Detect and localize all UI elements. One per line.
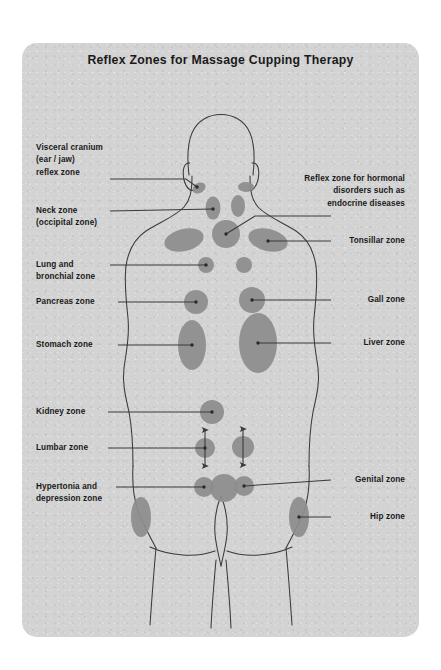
label-lumbar-zone[interactable]: Lumbar zone bbox=[36, 442, 88, 454]
label-hormonal-zone[interactable]: Reflex zone for hormonal disorders such … bbox=[304, 173, 405, 210]
zone-hip-left bbox=[131, 497, 151, 537]
label-lung-bronchial-zone[interactable]: Lung and bronchial zone bbox=[36, 259, 95, 284]
label-hypertonia-depression[interactable]: Hypertonia and depression zone bbox=[36, 481, 102, 506]
label-pancreas-zone[interactable]: Pancreas zone bbox=[36, 296, 95, 308]
zone-lung-right bbox=[236, 257, 252, 273]
leader-neck-zone bbox=[110, 209, 213, 211]
zone-shoulder-left bbox=[162, 224, 206, 255]
leader-hormonal bbox=[226, 216, 331, 234]
leader-genital bbox=[244, 480, 331, 486]
label-tonsillar-zone[interactable]: Tonsillar zone bbox=[349, 235, 405, 247]
label-gall-zone[interactable]: Gall zone bbox=[368, 294, 405, 306]
label-genital-zone[interactable]: Genital zone bbox=[355, 474, 405, 486]
label-stomach-zone[interactable]: Stomach zone bbox=[36, 339, 93, 351]
zone-visceral-cranium bbox=[190, 180, 207, 195]
body-outline bbox=[123, 115, 318, 629]
label-liver-zone[interactable]: Liver zone bbox=[364, 337, 406, 349]
zone-genital-center bbox=[210, 474, 238, 502]
label-neck-zone[interactable]: Neck zone (occipital zone) bbox=[36, 205, 97, 230]
label-kidney-zone[interactable]: Kidney zone bbox=[36, 406, 85, 418]
label-hip-zone[interactable]: Hip zone bbox=[370, 511, 405, 523]
reflex-zone-diagram bbox=[0, 0, 441, 670]
zone-cranium-right bbox=[238, 182, 254, 192]
zone-neck-right bbox=[231, 195, 245, 217]
label-visceral-cranium[interactable]: Visceral cranium (ear / jaw) reflex zone bbox=[36, 142, 103, 179]
